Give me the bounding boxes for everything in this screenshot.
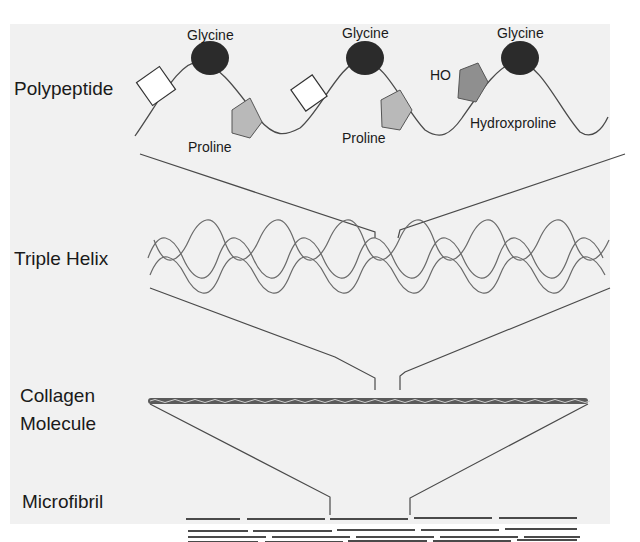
label-glycine-1: Glycine — [187, 27, 234, 43]
collagen-molecule-rod — [148, 398, 590, 404]
label-collagen: Collagen — [20, 385, 95, 406]
label-proline-2: Proline — [342, 130, 386, 146]
label-microfibril: Microfibril — [22, 491, 103, 512]
residue-square-1 — [137, 67, 176, 106]
connector-line-left-1 — [140, 154, 375, 238]
microfibril-strands — [186, 518, 577, 542]
connector-line-left-2 — [150, 288, 375, 390]
label-hydroxyproline: Hydroxproline — [470, 115, 557, 131]
label-triple-helix: Triple Helix — [14, 248, 109, 269]
label-molecule: Molecule — [20, 413, 96, 434]
hydroxyproline-icon — [458, 63, 488, 102]
label-proline-1: Proline — [188, 139, 232, 155]
label-ho: HO — [430, 67, 451, 83]
collagen-diagram: Polypeptide Glycine Glycine Glycine Prol… — [0, 0, 640, 542]
proline-icon-2 — [381, 90, 412, 130]
label-glycine-2: Glycine — [342, 25, 389, 41]
connector-line-right-2 — [400, 288, 610, 390]
glycine-icon-3 — [501, 41, 539, 75]
residue-square-2 — [291, 75, 327, 111]
connector-line-right-3 — [410, 404, 588, 515]
label-polypeptide: Polypeptide — [14, 78, 113, 99]
glycine-icon-1 — [191, 41, 229, 75]
proline-icon-1 — [232, 98, 262, 138]
label-glycine-3: Glycine — [497, 25, 544, 41]
triple-helix-strands — [148, 220, 609, 293]
glycine-icon-2 — [346, 41, 384, 75]
connector-line-right-1 — [398, 154, 625, 238]
connector-line-left-3 — [150, 404, 330, 515]
